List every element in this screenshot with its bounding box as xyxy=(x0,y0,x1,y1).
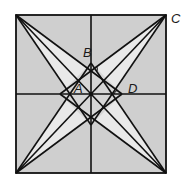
label-c: C xyxy=(171,11,181,26)
geometry-diagram: B A D C xyxy=(0,0,188,186)
label-d: D xyxy=(128,81,137,96)
center-point xyxy=(89,92,93,96)
label-b: B xyxy=(83,45,92,60)
label-a: A xyxy=(73,81,83,96)
